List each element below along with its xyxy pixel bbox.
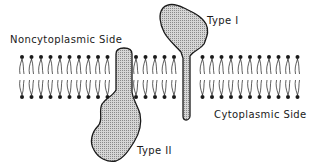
cytoplasmic-side-label: Cytoplasmic Side — [214, 110, 307, 120]
type-i-protein — [160, 5, 208, 120]
type-ii-label: Type II — [137, 146, 172, 156]
membrane-topology-diagram: Noncytoplasmic Side Type I Cytoplasmic S… — [0, 0, 313, 167]
type-i-label: Type I — [207, 16, 239, 26]
noncytoplasmic-side-label: Noncytoplasmic Side — [10, 35, 122, 45]
lipid-bilayer — [20, 55, 300, 99]
type-ii-protein — [91, 48, 140, 161]
diagram-canvas — [0, 0, 313, 167]
